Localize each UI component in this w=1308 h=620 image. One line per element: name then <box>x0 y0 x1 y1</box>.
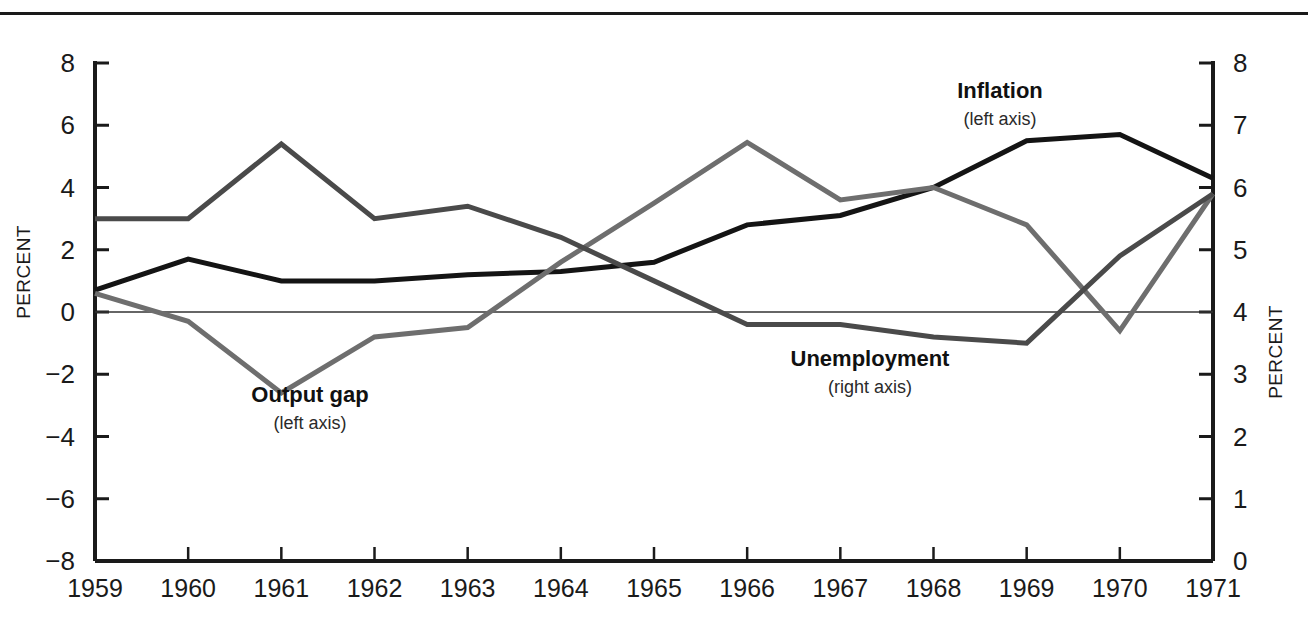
x-axis-year-label: 1967 <box>813 574 869 602</box>
x-axis-year-label: 1963 <box>440 574 496 602</box>
right-axis-title: PERCENT <box>1265 305 1286 399</box>
left-axis-tick-label: 0 <box>61 297 75 327</box>
x-axis-year-label: 1970 <box>1092 574 1148 602</box>
x-axis-year-label: 1960 <box>160 574 216 602</box>
x-axis-year-labels: 1959196019611962196319641965196619671968… <box>67 574 1241 602</box>
line-chart-plot: −8−6−4−202468012345678 19591960196119621… <box>0 0 1308 620</box>
x-axis-year-label: 1962 <box>347 574 403 602</box>
right-axis-tick-label: 3 <box>1233 359 1247 389</box>
left-axis-tick-label: −2 <box>45 359 75 389</box>
x-axis-year-label: 1969 <box>999 574 1055 602</box>
x-axis-year-label: 1964 <box>533 574 589 602</box>
right-axis-tick-label: 0 <box>1233 546 1247 576</box>
axes-layer <box>95 61 1213 561</box>
right-axis-tick-label: 5 <box>1233 235 1247 265</box>
series-annotation: Inflation(left axis) <box>957 78 1043 129</box>
left-axis-tick-label: −6 <box>45 484 75 514</box>
series-annotation-axis-note: (right axis) <box>828 377 912 397</box>
series-annotation-axis-note: (left axis) <box>273 413 346 433</box>
left-axis-title: PERCENT <box>13 225 34 319</box>
right-axis-tick-label: 7 <box>1233 110 1247 140</box>
series-annotation-name: Unemployment <box>791 346 951 371</box>
left-axis-tick-label: 4 <box>61 173 75 203</box>
x-axis-year-label: 1971 <box>1185 574 1241 602</box>
left-axis-tick-label: 8 <box>61 48 75 78</box>
series-annotation-name: Inflation <box>957 78 1043 103</box>
x-axis-year-label: 1966 <box>719 574 775 602</box>
series-annotation-axis-note: (left axis) <box>963 109 1036 129</box>
right-axis-tick-label: 4 <box>1233 297 1247 327</box>
right-axis-tick-label: 8 <box>1233 48 1247 78</box>
right-axis-tick-label: 6 <box>1233 173 1247 203</box>
x-axis-year-label: 1965 <box>626 574 682 602</box>
left-axis-tick-label: 2 <box>61 235 75 265</box>
series-annotation: Unemployment(right axis) <box>791 346 951 397</box>
series-annotation: Output gap(left axis) <box>251 382 368 433</box>
left-axis-tick-label: 6 <box>61 110 75 140</box>
x-axis-year-label: 1968 <box>906 574 962 602</box>
data-series-layer <box>95 135 1213 393</box>
series-annotations-layer: Inflation(left axis)Output gap(left axis… <box>251 78 1042 433</box>
left-axis-tick-label: −8 <box>45 546 75 576</box>
x-axis-year-label: 1961 <box>254 574 310 602</box>
series-annotation-name: Output gap <box>251 382 368 407</box>
series-line-output-gap <box>95 142 1213 393</box>
chart-figure: −8−6−4−202468012345678 19591960196119621… <box>0 0 1308 620</box>
x-axis-year-label: 1959 <box>67 574 123 602</box>
right-axis-tick-label: 1 <box>1233 484 1247 514</box>
left-axis-tick-label: −4 <box>45 422 75 452</box>
right-axis-tick-label: 2 <box>1233 422 1247 452</box>
